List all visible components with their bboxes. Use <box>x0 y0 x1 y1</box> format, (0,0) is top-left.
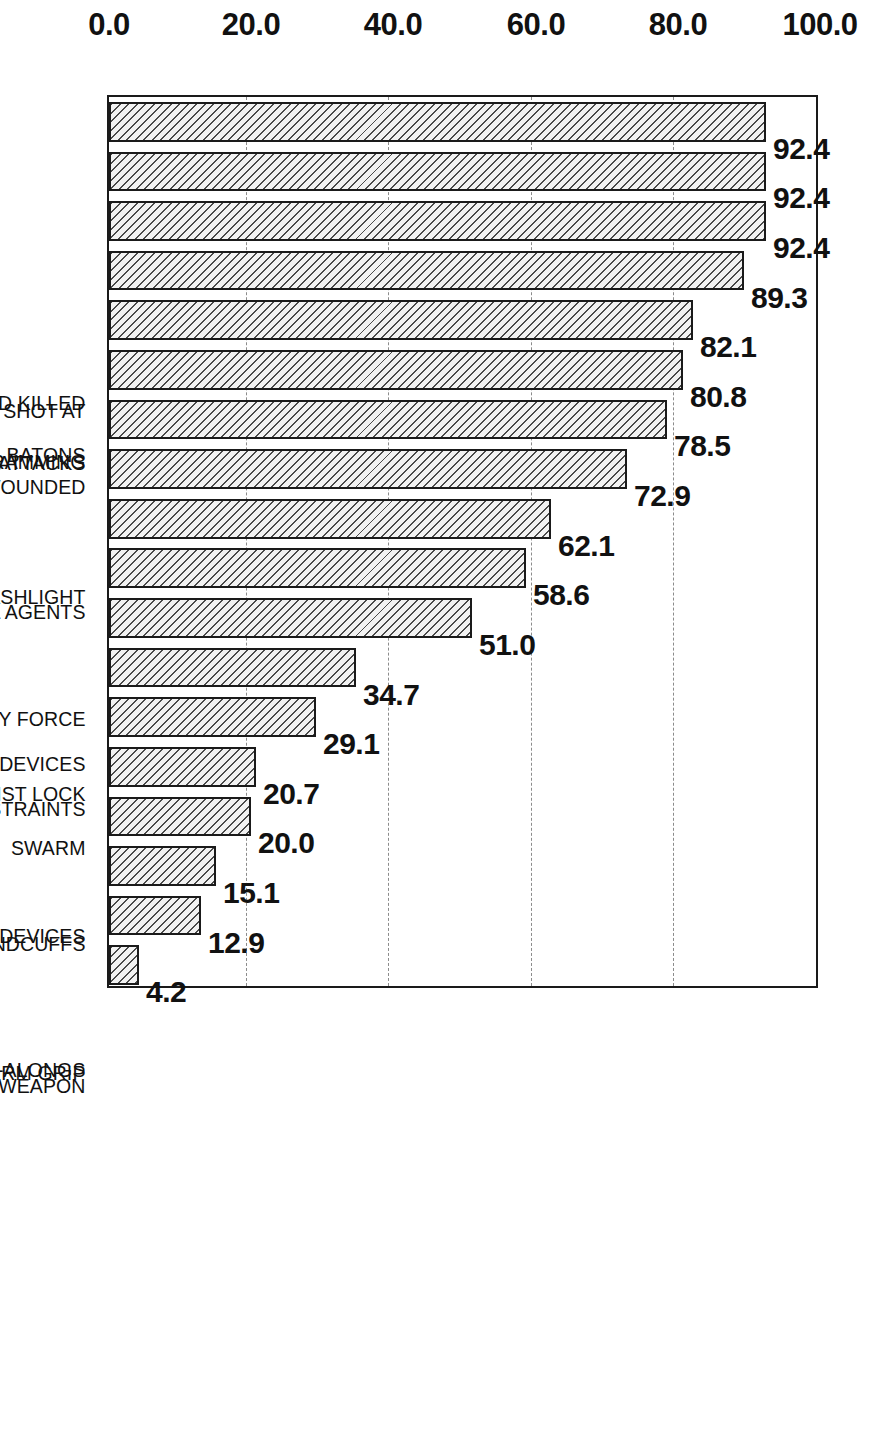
bar <box>109 747 256 787</box>
bar <box>109 152 766 192</box>
bar-value-label: 80.8 <box>691 380 747 414</box>
bar <box>109 648 356 688</box>
category-label: FLASHLIGHT <box>0 586 86 609</box>
bar-value-label: 72.9 <box>634 479 690 513</box>
bar <box>109 449 627 489</box>
bar <box>109 548 526 588</box>
bar <box>109 896 201 936</box>
bar-value-label: 20.0 <box>258 826 314 860</box>
chart-stage: 92.492.492.489.382.180.878.572.962.158.6… <box>0 0 870 1434</box>
bar-value-label: 89.3 <box>751 281 807 315</box>
bar <box>109 945 139 985</box>
value-tick-label: 80.0 <box>628 7 728 43</box>
category-label: CIVILIANS SHOT AT <box>0 400 86 423</box>
category-label: OTHER IMPACT DEVICES <box>0 753 86 776</box>
value-tick-label: 40.0 <box>343 7 443 43</box>
plot-area <box>107 95 818 988</box>
bar-value-label: 29.1 <box>323 727 379 761</box>
category-label: FIRM GRIP <box>0 1062 86 1085</box>
bar-value-label: 51.0 <box>479 628 535 662</box>
bar-value-label: 92.4 <box>773 181 829 215</box>
bar <box>109 697 316 737</box>
bar-value-label: 82.1 <box>700 330 756 364</box>
bar-value-label: 92.4 <box>773 231 829 265</box>
bar <box>109 598 472 638</box>
category-label: BATONS <box>7 444 86 467</box>
bar <box>109 499 551 539</box>
bar-value-label: 78.5 <box>674 429 730 463</box>
bar <box>109 102 766 142</box>
bar-value-label: 12.9 <box>208 926 264 960</box>
category-label: TWIST LOCK <box>0 783 86 806</box>
bar-value-label: 92.4 <box>773 132 829 166</box>
category-label: BODILY FORCE <box>0 708 86 731</box>
bar-value-label: 20.7 <box>263 777 319 811</box>
value-tick-label: 20.0 <box>201 7 301 43</box>
bar <box>109 797 251 837</box>
bar <box>109 350 683 390</box>
bar-value-label: 58.6 <box>533 578 589 612</box>
bar <box>109 300 693 340</box>
bar <box>109 251 744 291</box>
bar <box>109 846 216 886</box>
bar-value-label: 34.7 <box>363 678 419 712</box>
bar-series <box>109 97 816 986</box>
value-tick-label: 100.0 <box>770 7 870 43</box>
bar-value-label: 4.2 <box>146 975 186 1009</box>
value-tick-label: 0.0 <box>59 7 159 43</box>
bar <box>109 201 766 241</box>
chart-rotator: 92.492.492.489.382.180.878.572.962.158.6… <box>0 0 870 1434</box>
category-label: HANDCUFFS <box>0 933 86 956</box>
category-label: CIVILIANS SHOT AND WOUNDED <box>0 477 86 500</box>
value-tick-label: 60.0 <box>486 7 586 43</box>
category-label: SWARM <box>11 837 86 860</box>
bar-value-label: 15.1 <box>223 876 279 910</box>
bar-value-label: 62.1 <box>558 529 614 563</box>
bar <box>109 400 667 440</box>
